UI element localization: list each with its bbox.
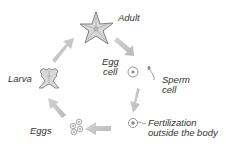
- starfish-icon: [80, 12, 113, 44]
- eggs-cluster-icon: [70, 119, 83, 135]
- life-cycle-diagram: Adult Egg cell Sperm cell Fertilization …: [0, 0, 226, 152]
- label-fertilization-line2: outside the body: [148, 128, 218, 138]
- fertilized-egg-icon: [129, 119, 147, 128]
- larva-icon: [39, 69, 59, 89]
- label-larva: Larva: [8, 74, 32, 84]
- arrow-gametes-to-fertilization-icon: [130, 88, 140, 113]
- label-eggs: Eggs: [30, 126, 52, 136]
- arrow-eggs-to-larva-icon: [48, 98, 66, 118]
- arrow-fertilization-to-eggs-icon: [85, 122, 111, 135]
- label-egg-cell-line2: cell: [103, 67, 117, 77]
- label-sperm-cell-line2: cell: [162, 85, 176, 95]
- sperm-cell-icon: [147, 66, 154, 80]
- arrow-larva-to-adult-icon: [52, 38, 74, 63]
- egg-cell-icon: [128, 67, 138, 77]
- arrow-adult-to-gametes-icon: [114, 37, 134, 56]
- label-adult: Adult: [118, 13, 140, 23]
